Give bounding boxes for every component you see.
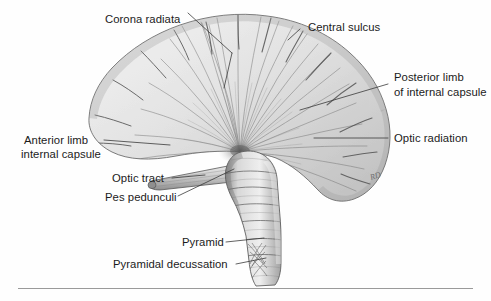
label-pes-pedunculi: Pes pedunculi [105,190,177,205]
label-posterior-limb-line2: of internal capsule [394,85,487,100]
label-anterior-limb-line2: internal capsule [21,147,101,162]
label-anterior-limb-line1: Anterior limb [24,133,88,148]
label-pyramid: Pyramid [182,235,224,250]
brainstem [223,151,282,286]
label-pyramidal-decussation: Pyramidal decussation [113,257,228,272]
label-posterior-limb-line1: Posterior limb [394,70,464,85]
footer-rule [18,288,473,289]
label-central-sulcus: Central sulcus [308,20,380,35]
label-optic-radiation: Optic radiation [394,131,468,146]
label-optic-tract: Optic tract [112,171,164,186]
label-corona-radiata: Corona radiata [105,12,180,27]
anatomy-figure: RD Corona radiata Central sulcus Posteri… [0,0,491,301]
